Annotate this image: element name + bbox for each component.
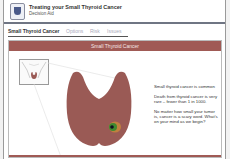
info-text-2: Death from thyroid cancer is very rare –… <box>154 94 218 104</box>
tab-options[interactable]: Options <box>66 28 83 34</box>
tab-risk[interactable]: Risk <box>90 28 100 34</box>
app-header: Treating your Small Thyroid Cancer Decis… <box>4 0 225 24</box>
info-text-3: No matter how small your tumor is, cance… <box>154 109 218 124</box>
tab-issues[interactable]: Issues <box>107 28 121 34</box>
app-subtitle: Decision Aid <box>29 11 54 16</box>
app-window: Treating your Small Thyroid Cancer Decis… <box>3 0 226 159</box>
info-text-1: Small thyroid cancer is common <box>154 84 218 89</box>
content-footer-bar <box>9 155 221 157</box>
app-title: Treating your Small Thyroid Cancer <box>29 4 122 10</box>
tab-small-thyroid-cancer[interactable]: Small Thyroid Cancer <box>8 28 59 34</box>
thyroid-illustration <box>59 69 139 157</box>
tab-bar: Small Thyroid Cancer Options Risk Issues <box>8 26 128 37</box>
university-shield-icon <box>10 3 25 20</box>
content-panel: Small Thyroid Cancer Small thyroid cance… <box>8 40 222 158</box>
